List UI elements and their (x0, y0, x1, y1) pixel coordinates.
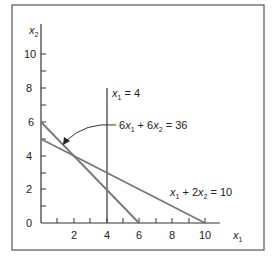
constraint-line-6x1-6x2-36 (41, 122, 139, 223)
x-tick-6: 6 (136, 229, 142, 241)
y-tick-0: 0 (26, 217, 32, 229)
y-tick-2: 2 (26, 183, 32, 195)
y-axis-label: x2 (28, 24, 39, 38)
x-axis-label: x1 (232, 229, 243, 243)
y-tick-10: 10 (24, 48, 36, 60)
x-tick-2: 2 (71, 229, 77, 241)
x-tick-10: 10 (199, 229, 211, 241)
label-6x1-6x2-36: 6x1 + 6x2 = 36 (119, 119, 187, 133)
x-ticks (57, 218, 205, 223)
annotation-arrow (66, 125, 116, 141)
label-x1-eq-4: x1 = 4 (111, 87, 140, 101)
constraint-line-x1-2x2-10 (41, 139, 205, 223)
x-tick-8: 8 (169, 229, 175, 241)
y-ticks (41, 54, 46, 206)
lp-feasibility-diagram: 0 2 4 6 8 10 2 4 6 8 10 x2 x1 x1 = 4 6x1… (0, 0, 275, 264)
x-tick-4: 4 (104, 229, 110, 241)
y-tick-4: 4 (26, 150, 32, 162)
y-tick-6: 6 (28, 116, 34, 128)
label-x1-2x2-10: x1 + 2x2 = 10 (169, 186, 232, 200)
y-tick-8: 8 (26, 82, 32, 94)
